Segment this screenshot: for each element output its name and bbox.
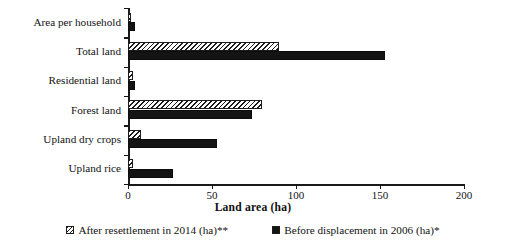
y-axis-tick [124, 155, 129, 156]
bar-before-displacement [128, 22, 135, 31]
bar-before-displacement [128, 110, 252, 119]
category-row-forest-land: Forest land [128, 96, 464, 125]
category-row-upland-rice: Upland rice [128, 155, 464, 184]
category-label: Forest land [71, 105, 121, 117]
category-label: Residential land [49, 75, 121, 87]
x-axis-tick-label: 200 [456, 189, 473, 201]
legend-label: Before displacement in 2006 (ha)* [284, 224, 439, 236]
category-label: Area per household [33, 17, 121, 29]
y-axis-tick [124, 125, 129, 126]
bar-before-displacement [128, 51, 385, 60]
plot-area: Area per household Total land Residentia… [128, 8, 464, 184]
x-axis-tick-label: 150 [372, 189, 389, 201]
x-axis-tick-label: 0 [125, 189, 131, 201]
legend-label: After resettlement in 2014 (ha)** [78, 224, 228, 236]
y-axis-tick [124, 8, 129, 9]
category-label: Upland dry crops [43, 134, 121, 146]
legend-item-before-displacement: Before displacement in 2006 (ha)* [272, 224, 439, 236]
bar-chart: Area per household Total land Residentia… [0, 0, 506, 249]
category-label: Upland rice [69, 163, 122, 175]
x-axis-tick-label: 50 [207, 189, 218, 201]
bar-before-displacement [128, 81, 135, 90]
x-axis-title: Land area (ha) [0, 201, 506, 214]
legend-item-after-resettlement: After resettlement in 2014 (ha)** [66, 224, 228, 236]
category-row-area-per-household: Area per household [128, 8, 464, 37]
bar-after-resettlement [128, 13, 131, 22]
x-axis-tick-label: 100 [288, 189, 305, 201]
category-row-residential-land: Residential land [128, 67, 464, 96]
hatched-square-icon [66, 226, 74, 234]
bar-before-displacement [128, 139, 217, 148]
category-label: Total land [76, 46, 121, 58]
category-row-upland-dry-crops: Upland dry crops [128, 125, 464, 154]
bar-after-resettlement [128, 130, 141, 139]
bar-after-resettlement [128, 159, 133, 168]
bar-after-resettlement [128, 71, 133, 80]
chart-legend: After resettlement in 2014 (ha)** Before… [0, 224, 506, 236]
bar-before-displacement [128, 169, 173, 178]
y-axis-tick [124, 37, 129, 38]
bar-after-resettlement [128, 100, 262, 109]
y-axis-tick [124, 96, 129, 97]
y-axis-tick [124, 67, 129, 68]
filled-square-icon [272, 226, 280, 234]
category-row-total-land: Total land [128, 37, 464, 66]
bar-after-resettlement [128, 42, 279, 51]
